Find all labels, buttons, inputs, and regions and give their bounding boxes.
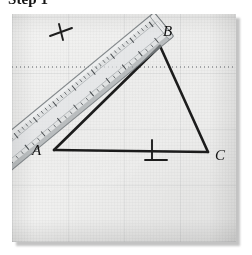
step-heading: Step 1	[8, 0, 48, 8]
photo-plate: A B C	[12, 14, 236, 242]
vertex-label-c: C	[215, 147, 226, 163]
vertex-label-b: B	[163, 23, 172, 39]
vertex-label-a: A	[31, 142, 42, 158]
triangle-side-ac	[54, 150, 208, 152]
construction-photo-figure: A B C	[12, 14, 236, 242]
triangle-side-bc	[160, 46, 208, 152]
drawing-layer: A B C	[12, 14, 236, 242]
